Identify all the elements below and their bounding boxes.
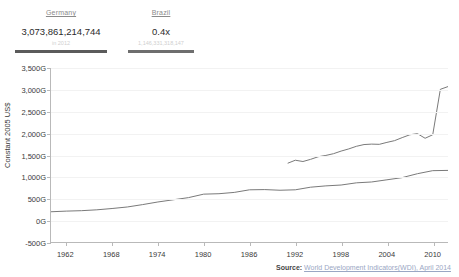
gridline xyxy=(51,221,448,222)
stat-header: Germany 3,073,861,214,744 in 2012 Brazil… xyxy=(0,8,200,56)
y-tick-mark xyxy=(47,112,51,113)
gridline xyxy=(51,90,448,91)
y-tick-label: 2,000G xyxy=(0,130,46,139)
gridline xyxy=(51,68,448,69)
stat-value-germany: 3,073,861,214,744 xyxy=(0,25,122,38)
x-tick-mark xyxy=(434,242,435,246)
y-tick-label: 2,500G xyxy=(0,108,46,117)
x-tick-mark xyxy=(388,242,389,246)
source-label: Source: xyxy=(276,264,302,271)
gridline xyxy=(51,199,448,200)
y-tick-mark xyxy=(47,199,51,200)
x-tick-label: 1986 xyxy=(241,250,258,259)
stat-bar-brazil xyxy=(128,50,194,53)
y-tick-mark xyxy=(47,243,51,244)
y-tick-label: 0G xyxy=(0,217,46,226)
y-tick-mark xyxy=(47,177,51,178)
stat-bar-germany xyxy=(15,50,107,53)
x-tick-label: 1992 xyxy=(287,250,304,259)
line-chart: Constant 2005 US$ 3,500G3,000G2,500G2,00… xyxy=(0,60,459,260)
stat-value-brazil: 0.4x xyxy=(122,25,200,38)
y-tick-mark xyxy=(47,134,51,135)
x-tick-label: 2010 xyxy=(424,250,441,259)
y-axis-ticks: 3,500G3,000G2,500G2,000G1,500G1,000G500G… xyxy=(0,60,46,240)
x-tick-label: 1974 xyxy=(149,250,166,259)
x-tick-label: 1968 xyxy=(103,250,120,259)
x-tick-mark xyxy=(250,242,251,246)
y-tick-label: 3,000G xyxy=(0,86,46,95)
x-tick-mark xyxy=(342,242,343,246)
y-tick-label: 1,000G xyxy=(0,173,46,182)
plot-area[interactable] xyxy=(50,68,448,243)
y-tick-mark xyxy=(47,90,51,91)
stat-country-name-germany[interactable]: Germany xyxy=(0,8,122,17)
stat-column-brazil[interactable]: Brazil 0.4x 1,146,331,318,147 xyxy=(122,8,200,56)
y-tick-mark xyxy=(47,156,51,157)
x-tick-mark xyxy=(204,242,205,246)
y-tick-mark xyxy=(47,221,51,222)
y-tick-label: 1,500G xyxy=(0,152,46,161)
stat-subtext-brazil: 1,146,331,318,147 xyxy=(122,39,200,47)
y-tick-mark xyxy=(47,68,51,69)
gridline xyxy=(51,112,448,113)
x-tick-label: 1962 xyxy=(57,250,74,259)
x-tick-mark xyxy=(66,242,67,246)
x-tick-mark xyxy=(112,242,113,246)
stat-column-germany[interactable]: Germany 3,073,861,214,744 in 2012 xyxy=(0,8,122,56)
x-tick-label: 1980 xyxy=(195,250,212,259)
stat-subtext-germany: in 2012 xyxy=(0,39,122,47)
source-note: Source: World Development Indicators(WDI… xyxy=(276,264,451,271)
source-link[interactable]: World Development Indicators(WDI), April… xyxy=(304,264,451,271)
gridline xyxy=(51,156,448,157)
x-axis-ticks: 196219681974198019861992199820042010 xyxy=(50,250,448,262)
y-tick-label: 3,500G xyxy=(0,64,46,73)
stat-country-name-brazil[interactable]: Brazil xyxy=(122,8,200,17)
gridline xyxy=(51,177,448,178)
x-tick-label: 1998 xyxy=(333,250,350,259)
gridline xyxy=(51,134,448,135)
x-tick-mark xyxy=(296,242,297,246)
y-tick-label: -500G xyxy=(0,239,46,248)
y-tick-label: 500G xyxy=(0,195,46,204)
x-tick-label: 2004 xyxy=(378,250,395,259)
x-tick-mark xyxy=(158,242,159,246)
series-line-germany xyxy=(288,87,448,164)
